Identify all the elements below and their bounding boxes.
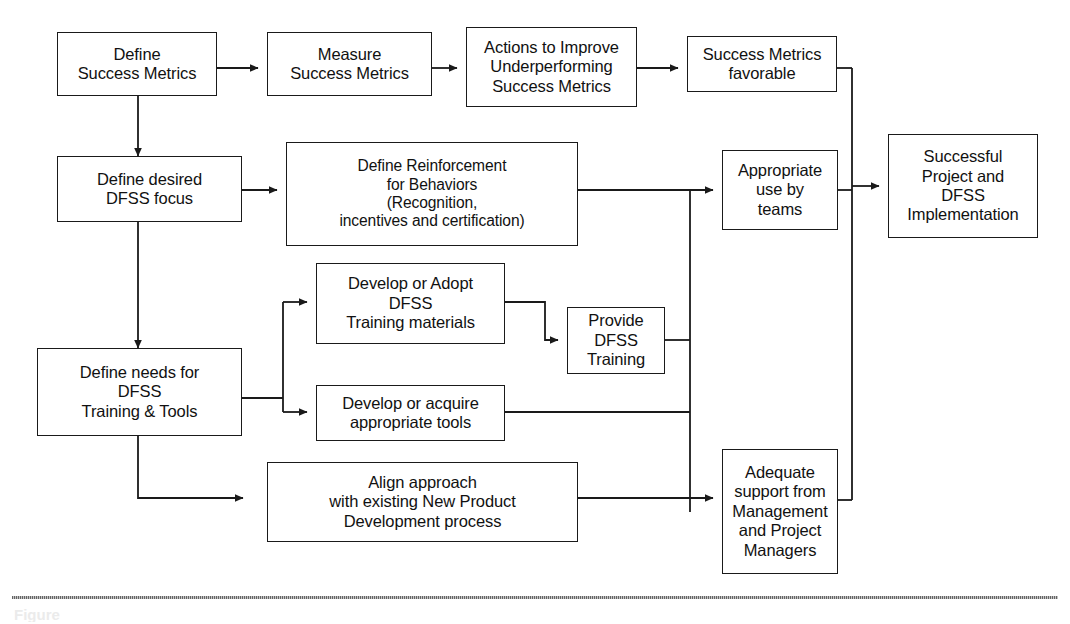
node-define-reinforcement[interactable]: Define Reinforcement for Behaviors (Reco… [286, 142, 578, 246]
node-align-approach[interactable]: Align approach with existing New Product… [267, 462, 578, 542]
node-appropriate-use-by-teams[interactable]: Appropriate use by teams [722, 150, 838, 230]
node-define-desired-dfss-focus[interactable]: Define desired DFSS focus [57, 156, 242, 222]
node-adequate-support[interactable]: Adequate support from Management and Pro… [722, 449, 838, 574]
node-define-success-metrics[interactable]: Define Success Metrics [57, 32, 217, 96]
figure-caption: Figure [14, 606, 414, 622]
node-define-needs-for-dfss[interactable]: Define needs for DFSS Training & Tools [37, 348, 242, 436]
figure-divider-rule [12, 596, 1058, 599]
node-success-metrics-favorable[interactable]: Success Metrics favorable [687, 36, 837, 92]
edge-needs-to-align [138, 436, 243, 498]
node-develop-or-adopt-training[interactable]: Develop or Adopt DFSS Training materials [316, 263, 505, 344]
node-actions-to-improve[interactable]: Actions to Improve Underperforming Succe… [466, 27, 637, 107]
node-measure-success-metrics[interactable]: Measure Success Metrics [267, 32, 432, 96]
node-develop-or-acquire-tools[interactable]: Develop or acquire appropriate tools [316, 385, 505, 441]
edge-develop-adopt-to-training [505, 302, 558, 340]
node-successful-project[interactable]: Successful Project and DFSS Implementati… [888, 134, 1038, 238]
flowchart-figure: Define Success Metrics Measure Success M… [0, 0, 1070, 624]
node-provide-dfss-training[interactable]: Provide DFSS Training [567, 307, 665, 374]
